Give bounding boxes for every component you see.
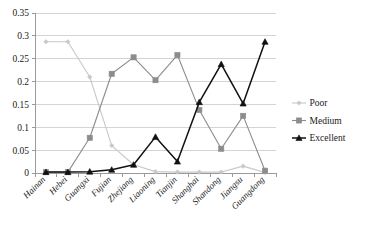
- data-point-marker-triangle: [240, 100, 246, 106]
- series-medium: [43, 52, 267, 174]
- data-point-marker-square: [296, 118, 301, 123]
- y-tick-label: 0.3: [17, 31, 29, 41]
- series-poor: [44, 40, 268, 175]
- series-line: [46, 42, 265, 173]
- data-point-marker-triangle: [152, 134, 158, 140]
- y-tick-label: 0: [24, 168, 29, 178]
- data-point-marker-diamond: [175, 170, 180, 175]
- y-tick-label: 0.25: [12, 54, 29, 64]
- data-point-marker-triangle: [218, 61, 224, 67]
- data-point-marker-diamond: [197, 170, 202, 175]
- y-tick-label: 0.35: [12, 8, 29, 18]
- x-tick-label: Guangxi: [62, 174, 91, 203]
- data-point-marker-square: [262, 168, 267, 173]
- y-tick-label: 0.15: [12, 100, 29, 110]
- legend-item-poor: Poor: [292, 98, 328, 108]
- legend-label: Excellent: [310, 133, 346, 143]
- y-axis-tick-labels: 00.050.10.150.20.250.30.35: [12, 8, 35, 178]
- data-point-marker-diamond: [219, 170, 224, 175]
- data-point-marker-square: [87, 135, 92, 140]
- legend-item-excellent: Excellent: [292, 133, 346, 143]
- data-point-marker-square: [219, 146, 224, 151]
- data-point-marker-square: [175, 52, 180, 57]
- y-tick-label: 0.05: [12, 146, 29, 156]
- line-chart: 00.050.10.150.20.250.30.35 HainanHebeiGu…: [0, 0, 376, 230]
- series-line: [46, 42, 265, 172]
- legend-item-medium: Medium: [292, 116, 342, 126]
- data-point-marker-diamond: [44, 40, 49, 45]
- data-point-marker-square: [131, 55, 136, 60]
- legend-label: Poor: [310, 98, 329, 108]
- y-tick-label: 0.2: [17, 77, 29, 87]
- y-tick-label: 0.1: [17, 123, 29, 133]
- data-point-marker-diamond: [241, 164, 246, 169]
- chart-canvas: 00.050.10.150.20.250.30.35 HainanHebeiGu…: [0, 0, 376, 230]
- data-point-marker-square: [109, 71, 114, 76]
- data-point-marker-square: [153, 78, 158, 83]
- data-point-marker-diamond: [297, 101, 302, 106]
- data-point-marker-square: [241, 113, 246, 118]
- data-point-marker-triangle: [196, 99, 202, 105]
- axes: [35, 13, 276, 173]
- chart-legend: PoorMediumExcellent: [292, 98, 346, 143]
- series-line: [46, 55, 265, 172]
- legend-label: Medium: [310, 116, 343, 126]
- data-point-marker-triangle: [262, 39, 268, 45]
- x-axis-tick-labels: HainanHebeiGuangxiFujianZhejiangLiaoning…: [20, 174, 266, 211]
